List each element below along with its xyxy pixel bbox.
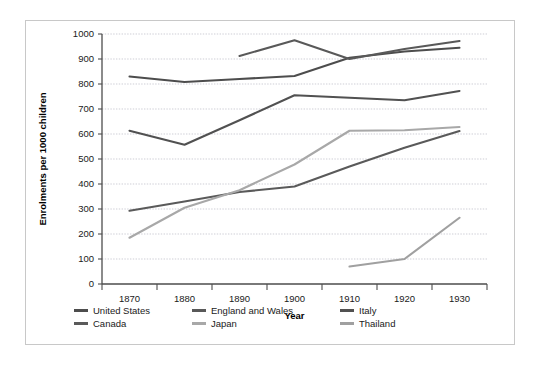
y-tick-label: 200	[78, 228, 94, 239]
y-tick-label: 800	[78, 78, 94, 89]
x-tick-label: 1870	[119, 293, 140, 304]
legend-item-thailand[interactable]: Thailand	[340, 318, 450, 329]
x-tick-label: 1900	[284, 293, 305, 304]
legend-item-japan[interactable]: Japan	[192, 318, 340, 329]
y-tick-label: 700	[78, 103, 94, 114]
legend-item-italy[interactable]: Italy	[340, 305, 450, 316]
legend-swatch-icon	[74, 309, 88, 311]
y-tick-label: 600	[78, 128, 94, 139]
legend-label: Italy	[359, 305, 376, 316]
chart-legend: United StatesEngland and WalesItalyCanad…	[74, 304, 472, 330]
x-tick-label: 1890	[229, 293, 250, 304]
y-tick-label: 100	[78, 253, 94, 264]
y-tick-label: 400	[78, 178, 94, 189]
y-tick-label: 900	[78, 53, 94, 64]
y-tick-label: 500	[78, 153, 94, 164]
y-axis-title: Enrolments per 1000 children	[37, 92, 48, 225]
legend-label: Japan	[211, 318, 237, 329]
chart-frame: 0100200300400500600700800900100018701880…	[25, 20, 515, 345]
x-tick-label: 1930	[449, 293, 470, 304]
legend-item-canada[interactable]: Canada	[74, 318, 192, 329]
x-tick-label: 1880	[174, 293, 195, 304]
y-tick-label: 300	[78, 203, 94, 214]
line-chart: 0100200300400500600700800900100018701880…	[26, 21, 514, 344]
legend-label: England and Wales	[211, 305, 293, 316]
y-tick-label: 0	[89, 278, 94, 289]
y-tick-label: 1000	[73, 28, 94, 39]
legend-item-england-and-wales[interactable]: England and Wales	[192, 305, 340, 316]
legend-row: CanadaJapanThailand	[74, 317, 472, 330]
x-tick-label: 1910	[339, 293, 360, 304]
legend-label: Canada	[93, 318, 126, 329]
series-line-italy	[130, 91, 460, 145]
legend-swatch-icon	[340, 322, 354, 324]
legend-swatch-icon	[74, 322, 88, 324]
legend-swatch-icon	[340, 309, 354, 311]
legend-swatch-icon	[192, 322, 206, 324]
legend-swatch-icon	[192, 309, 206, 311]
series-line-united-states	[130, 48, 460, 82]
legend-item-united-states[interactable]: United States	[74, 305, 192, 316]
x-tick-label: 1920	[394, 293, 415, 304]
legend-label: United States	[93, 305, 150, 316]
legend-label: Thailand	[359, 318, 395, 329]
legend-row: United StatesEngland and WalesItaly	[74, 304, 472, 317]
